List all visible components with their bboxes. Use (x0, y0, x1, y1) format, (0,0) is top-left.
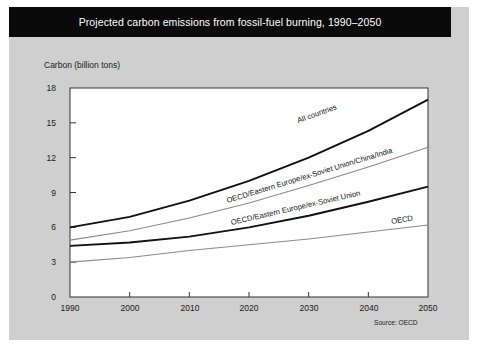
source-note: Source: OECD (374, 319, 418, 326)
chart-plot-wrapper: Carbon (billion tons) 18 15 12 9 6 3 0 1… (0, 0, 478, 354)
chart-canvas (0, 0, 478, 354)
